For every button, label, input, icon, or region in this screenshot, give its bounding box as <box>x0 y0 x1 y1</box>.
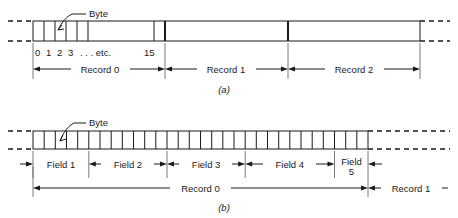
panel-a-dimension-record-2: Record 2 <box>288 63 420 75</box>
panel-a-continuation-left <box>8 21 33 41</box>
panel-b-dimension-record-1: Record 1 <box>368 182 448 194</box>
panel-a-byte-label-3: 3 <box>68 47 73 58</box>
panel-a-byte-dividers <box>44 21 154 41</box>
panel-b-byte-dividers <box>44 131 357 149</box>
panel-b-dimension-field-3: Field 3 <box>167 158 245 170</box>
panel-a-byte-label-etc: . . . etc. <box>80 47 111 58</box>
panel-b-field-5-label-line1: Field <box>341 156 362 167</box>
panel-b-continuation-right <box>368 131 450 149</box>
panel-a-byte-label: Byte <box>89 8 108 19</box>
panel-a-byte-number-labels: 0 1 2 3 . . . etc. 15 <box>35 47 155 58</box>
record-field-diagram: Byte 0 1 2 3 . . . etc. 15 <box>0 0 458 218</box>
panel-b-record-1-label: Record 1 <box>392 183 431 194</box>
panel-b-continuation-left <box>8 131 33 149</box>
panel-a-stream-bar <box>33 21 420 41</box>
panel-a-record-0-label: Record 0 <box>81 64 120 75</box>
panel-b-byte-label: Byte <box>89 117 108 128</box>
panel-b-record-0-label: Record 0 <box>181 183 220 194</box>
panel-a-caption: (a) <box>218 84 230 95</box>
panel-a-byte-label-15: 15 <box>144 47 155 58</box>
panel-b-byte-callout: Byte <box>60 117 108 141</box>
panel-b-dimension-field-4: Field 4 <box>245 158 334 170</box>
panel-a-byte-label-1: 1 <box>46 47 51 58</box>
panel-a-dimension-record-1: Record 1 <box>165 63 288 75</box>
panel-b-dimension-record-0: Record 0 <box>33 182 368 194</box>
panel-a-record-boundaries <box>165 21 288 41</box>
panel-a-byte-label-2: 2 <box>57 47 62 58</box>
panel-a-dimension-record-0: Record 0 <box>33 63 165 75</box>
panel-b-caption: (b) <box>218 202 230 213</box>
panel-b-dimension-field-5: Field 5 <box>341 156 382 178</box>
panel-a-byte-label-0: 0 <box>35 47 40 58</box>
panel-b-field-1-label: Field 1 <box>47 159 76 170</box>
panel-a-record-1-label: Record 1 <box>207 64 246 75</box>
panel-b-dimension-field-1: Field 1 <box>20 159 75 170</box>
panel-b: Byte Field 1 Fiel <box>8 117 450 213</box>
panel-a: Byte 0 1 2 3 . . . etc. 15 <box>8 8 450 95</box>
panel-a-continuation-right <box>420 21 450 41</box>
panel-b-dimension-field-2: Field 2 <box>89 158 167 170</box>
panel-a-record-2-label: Record 2 <box>335 64 374 75</box>
panel-b-field-5-label-line2: 5 <box>349 166 354 177</box>
panel-b-field-4-label: Field 4 <box>276 159 305 170</box>
figure-root: Byte 0 1 2 3 . . . etc. 15 <box>0 0 458 218</box>
panel-b-field-3-label: Field 3 <box>192 159 221 170</box>
panel-b-field-2-label: Field 2 <box>114 159 143 170</box>
